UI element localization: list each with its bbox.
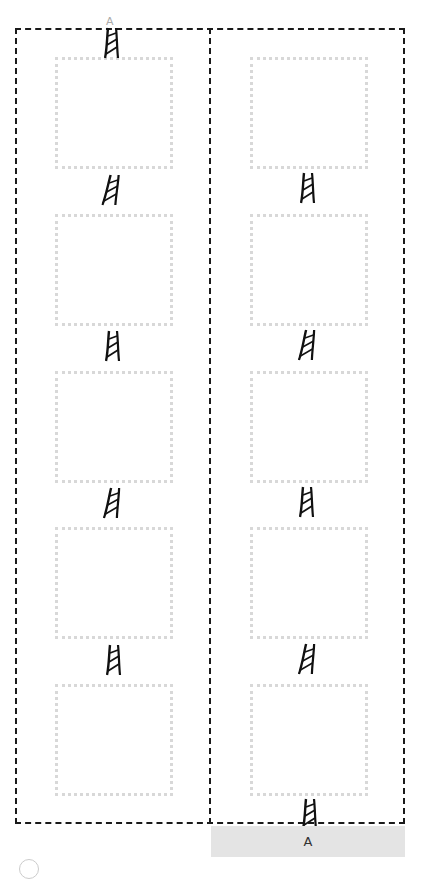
frame-right-5[interactable] — [250, 684, 368, 796]
frame-right-1[interactable] — [250, 57, 368, 169]
frame-right-2[interactable] — [250, 214, 368, 326]
frame-left-2[interactable] — [55, 214, 173, 326]
link-right-3-4[interactable] — [299, 486, 315, 518]
circle-handle-icon[interactable] — [19, 859, 39, 879]
frame-left-5[interactable] — [55, 684, 173, 796]
bottom-bar-label: A — [304, 834, 313, 849]
ladder-link-icon — [104, 27, 120, 59]
frame-left-4[interactable] — [55, 527, 173, 639]
link-left-4-5[interactable] — [106, 644, 122, 676]
link-left-top[interactable] — [104, 27, 120, 59]
frame-left-3[interactable] — [55, 371, 173, 483]
column-divider — [209, 28, 211, 824]
ladder-link-icon — [300, 172, 316, 204]
ladder-link-icon — [105, 330, 121, 362]
frame-right-3[interactable] — [250, 371, 368, 483]
ladder-link-icon — [299, 486, 315, 518]
frame-left-1[interactable] — [55, 57, 173, 169]
link-right-1-2[interactable] — [300, 172, 316, 204]
top-marker-label: A — [106, 16, 114, 27]
frame-right-4[interactable] — [250, 527, 368, 639]
bottom-bar[interactable]: A — [211, 826, 405, 857]
link-left-2-3[interactable] — [105, 330, 121, 362]
ladder-link-icon — [106, 644, 122, 676]
